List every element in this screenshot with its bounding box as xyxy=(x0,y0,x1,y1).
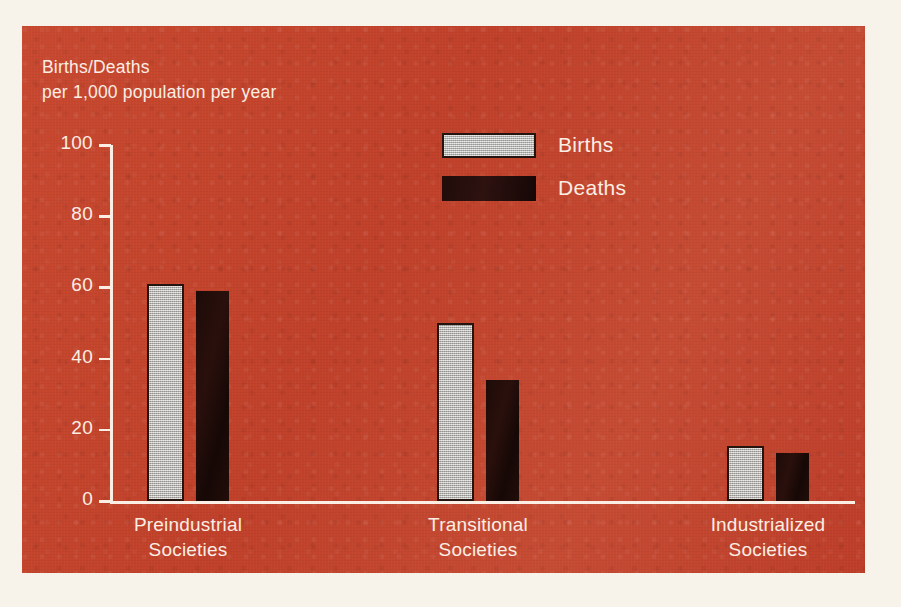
category-label-1-line2: Societies xyxy=(358,537,598,562)
y-tick-0 xyxy=(99,500,111,503)
bar-births-1 xyxy=(437,323,474,501)
y-tick-label-80: 80 xyxy=(37,203,93,225)
legend-label-deaths: Deaths xyxy=(558,176,626,200)
bar-deaths-2 xyxy=(776,453,809,501)
y-axis-title-line1: Births/Deaths xyxy=(42,55,276,80)
y-axis-title-line2: per 1,000 population per year xyxy=(42,80,276,105)
y-tick-20 xyxy=(99,429,111,432)
legend-label-births: Births xyxy=(558,133,613,157)
category-label-2-line1: Industrialized xyxy=(711,514,826,535)
chart-page: Births/Deaths per 1,000 population per y… xyxy=(0,0,901,607)
y-tick-label-0: 0 xyxy=(37,488,93,510)
category-label-1: TransitionalSocieties xyxy=(358,512,598,563)
y-tick-label-40: 40 xyxy=(37,346,93,368)
legend-swatch-deaths-icon xyxy=(442,176,536,201)
category-label-0: PreindustrialSocieties xyxy=(68,512,308,563)
y-tick-label-20: 20 xyxy=(37,417,93,439)
y-axis-line xyxy=(110,145,113,504)
category-label-2-line2: Societies xyxy=(648,537,888,562)
category-label-2: IndustrializedSocieties xyxy=(648,512,888,563)
category-label-0-line2: Societies xyxy=(68,537,308,562)
bar-deaths-0 xyxy=(196,291,229,501)
y-tick-100 xyxy=(99,144,111,147)
y-tick-label-60: 60 xyxy=(37,274,93,296)
y-tick-80 xyxy=(99,215,111,218)
category-label-0-line1: Preindustrial xyxy=(134,514,242,535)
bar-births-2 xyxy=(727,446,764,501)
legend-item-births: Births xyxy=(442,128,626,162)
legend-swatch-births-icon xyxy=(442,133,536,158)
y-tick-label-100: 100 xyxy=(37,132,93,154)
y-tick-40 xyxy=(99,358,111,361)
chart-legend: Births Deaths xyxy=(442,128,626,214)
category-label-1-line1: Transitional xyxy=(428,514,528,535)
bar-births-0 xyxy=(147,284,184,501)
y-axis-title: Births/Deaths per 1,000 population per y… xyxy=(42,55,276,105)
legend-item-deaths: Deaths xyxy=(442,171,626,205)
bar-deaths-1 xyxy=(486,380,519,501)
x-axis-line xyxy=(110,501,855,504)
y-tick-60 xyxy=(99,286,111,289)
